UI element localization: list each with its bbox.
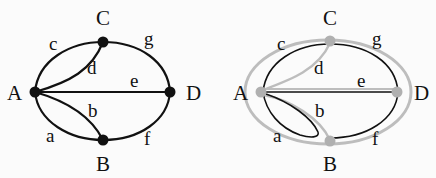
- edge-label-d: d: [87, 57, 97, 78]
- edge-label-a: a: [273, 125, 282, 146]
- edge-label-e: e: [357, 70, 365, 91]
- edge-label-f: f: [372, 128, 379, 149]
- diagram-canvas: A B C D a b c d e f g A B: [0, 0, 436, 178]
- node-label-B: B: [323, 152, 337, 176]
- edge-label-b: b: [315, 100, 325, 121]
- node-A: [30, 87, 41, 98]
- node-A: [256, 87, 267, 98]
- edge-label-b: b: [88, 100, 98, 121]
- node-label-A: A: [7, 81, 23, 105]
- node-label-C: C: [96, 6, 110, 30]
- node-label-D: D: [414, 81, 429, 105]
- edge-label-g: g: [144, 28, 154, 49]
- node-C: [98, 37, 109, 48]
- node-B: [98, 135, 109, 146]
- edge-label-e: e: [130, 70, 138, 91]
- node-D: [165, 87, 176, 98]
- node-label-D: D: [186, 81, 201, 105]
- edge-label-d: d: [314, 57, 324, 78]
- edge-label-a: a: [46, 125, 55, 146]
- original-graph: A B C D a b c d e f g: [7, 6, 201, 176]
- node-label-C: C: [323, 6, 337, 30]
- traced-graph: A B C D a b c d e f g: [233, 6, 429, 176]
- edge-label-c: c: [277, 33, 285, 54]
- edge-label-g: g: [372, 28, 382, 49]
- edge-f: [103, 92, 170, 140]
- edge-f: [330, 92, 398, 138]
- edge-label-f: f: [144, 128, 151, 149]
- node-label-A: A: [233, 81, 249, 105]
- node-B: [325, 136, 336, 147]
- node-label-B: B: [96, 152, 110, 176]
- node-C: [325, 36, 336, 47]
- node-D: [392, 87, 403, 98]
- edge-label-c: c: [49, 33, 57, 54]
